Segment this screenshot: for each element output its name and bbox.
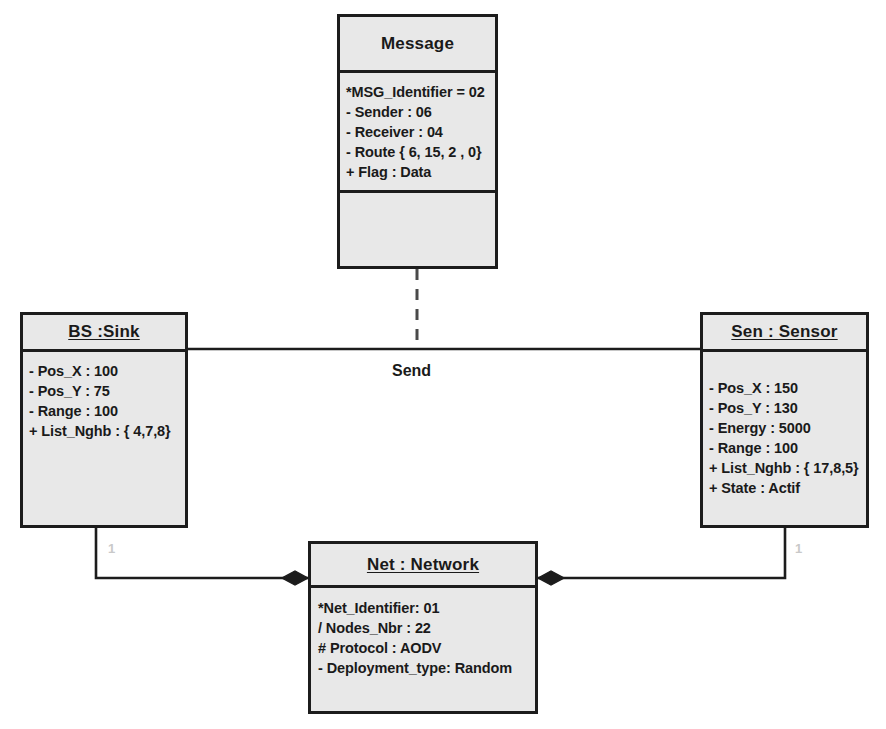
sensor-multiplicity-label: 1	[795, 541, 802, 556]
message-attribute: - Receiver : 04	[346, 122, 489, 142]
sensor-attribute: - Energy : 5000	[709, 418, 860, 438]
network-attribute: # Protocol : AODV	[318, 638, 529, 658]
class-box-message[interactable]: Message *MSG_Identifier = 02 - Sender : …	[337, 14, 498, 269]
sensor-name-compartment: Sen : Sensor	[703, 315, 866, 352]
sink-empty-space	[23, 445, 185, 525]
network-name-compartment: Net : Network	[311, 544, 535, 588]
message-attribute: *MSG_Identifier = 02	[346, 82, 489, 102]
sink-attribute-compartment: - Pos_X : 100 - Pos_Y : 75 - Range : 100…	[23, 352, 185, 445]
sink-attribute: - Pos_X : 100	[29, 361, 179, 381]
sensor-attribute: + List_Nghb : { 17,8,5}	[709, 458, 860, 478]
network-empty-space	[311, 682, 535, 711]
network-class-name: Net : Network	[367, 555, 479, 575]
sensor-attribute: - Pos_X : 150	[709, 378, 860, 398]
message-attribute: + Flag : Data	[346, 162, 489, 182]
sink-attribute: - Pos_Y : 75	[29, 381, 179, 401]
sink-attribute: - Range : 100	[29, 401, 179, 421]
sink-name-compartment: BS :Sink	[23, 315, 185, 352]
sensor-empty-space	[703, 502, 866, 525]
message-operation-compartment	[340, 190, 495, 266]
message-attribute-compartment: *MSG_Identifier = 02 - Sender : 06 - Rec…	[340, 73, 495, 190]
network-attribute: / Nodes_Nbr : 22	[318, 618, 529, 638]
sink-multiplicity-label: 1	[108, 541, 115, 556]
sink-composition-diamond	[282, 571, 308, 585]
message-class-name: Message	[381, 34, 454, 54]
class-box-sink[interactable]: BS :Sink - Pos_X : 100 - Pos_Y : 75 - Ra…	[20, 312, 188, 528]
sensor-network-composition-line[interactable]	[538, 528, 785, 578]
sink-class-name: BS :Sink	[68, 322, 140, 342]
class-box-sensor[interactable]: Sen : Sensor - Pos_X : 150 - Pos_Y : 130…	[700, 312, 869, 528]
sensor-attribute: - Pos_Y : 130	[709, 398, 860, 418]
sensor-class-name: Sen : Sensor	[731, 322, 837, 342]
sink-attribute: + List_Nghb : { 4,7,8}	[29, 421, 179, 441]
sink-network-composition-line[interactable]	[96, 528, 308, 578]
message-name-compartment: Message	[340, 17, 495, 73]
network-attribute: - Deployment_type: Random	[318, 658, 529, 678]
sensor-attribute: - Range : 100	[709, 438, 860, 458]
uml-diagram-canvas: Message *MSG_Identifier = 02 - Sender : …	[0, 0, 886, 729]
sensor-attribute: + State : Actif	[709, 478, 860, 498]
message-attribute: - Sender : 06	[346, 102, 489, 122]
message-attribute: - Route { 6, 15, 2 , 0}	[346, 142, 489, 162]
sensor-attribute-compartment: - Pos_X : 150 - Pos_Y : 130 - Energy : 5…	[703, 352, 866, 502]
sensor-composition-diamond	[538, 571, 564, 585]
network-attribute-compartment: *Net_Identifier: 01 / Nodes_Nbr : 22 # P…	[311, 588, 535, 682]
send-association-label: Send	[392, 362, 431, 380]
network-attribute: *Net_Identifier: 01	[318, 598, 529, 618]
class-box-network[interactable]: Net : Network *Net_Identifier: 01 / Node…	[308, 541, 538, 714]
